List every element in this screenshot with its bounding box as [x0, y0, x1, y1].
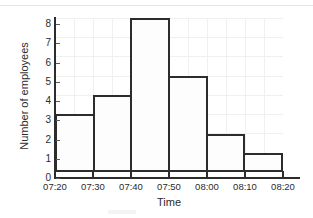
bar — [93, 95, 133, 172]
y-tick-label: 5 — [29, 77, 51, 87]
y-tick — [56, 82, 60, 83]
y-tick-label: 7 — [29, 38, 51, 48]
y-tick — [56, 43, 60, 44]
y-tick — [56, 178, 60, 179]
x-tick — [168, 171, 170, 178]
y-tick-label: 8 — [29, 19, 51, 29]
plot-area — [55, 18, 283, 172]
x-tick — [130, 171, 132, 178]
y-tick-label: 6 — [29, 58, 51, 68]
x-axis-title: Time — [55, 196, 283, 208]
y-tick — [56, 120, 60, 121]
bar — [55, 114, 95, 172]
y-tick — [56, 159, 60, 160]
y-tick-label: 1 — [29, 154, 51, 164]
clipped-artifact — [108, 210, 136, 214]
y-tick — [56, 101, 60, 102]
x-tick — [244, 171, 246, 178]
bar — [243, 153, 283, 172]
y-axis-line — [54, 17, 56, 179]
y-axis-title: Number of employees — [18, 16, 30, 176]
y-tick-label: 3 — [29, 115, 51, 125]
x-tick — [54, 171, 56, 178]
x-tick — [92, 171, 94, 178]
x-tick — [206, 171, 208, 178]
x-axis-line — [54, 177, 300, 179]
histogram-chart: 0 1 2 3 4 5 6 7 8 07:20 07:30 07:40 07:5… — [0, 6, 313, 218]
chart-page: 0 1 2 3 4 5 6 7 8 07:20 07:30 07:40 07:5… — [0, 0, 313, 218]
y-tick — [56, 63, 60, 64]
x-tick-label: 08:20 — [260, 181, 306, 192]
x-tick — [282, 171, 284, 178]
bar-series — [55, 18, 283, 172]
y-tick-label: 4 — [29, 96, 51, 106]
y-tick-label: 2 — [29, 135, 51, 145]
y-tick — [56, 24, 60, 25]
bar — [206, 134, 246, 173]
bar — [130, 18, 170, 172]
bar — [168, 76, 208, 172]
y-tick — [56, 140, 60, 141]
